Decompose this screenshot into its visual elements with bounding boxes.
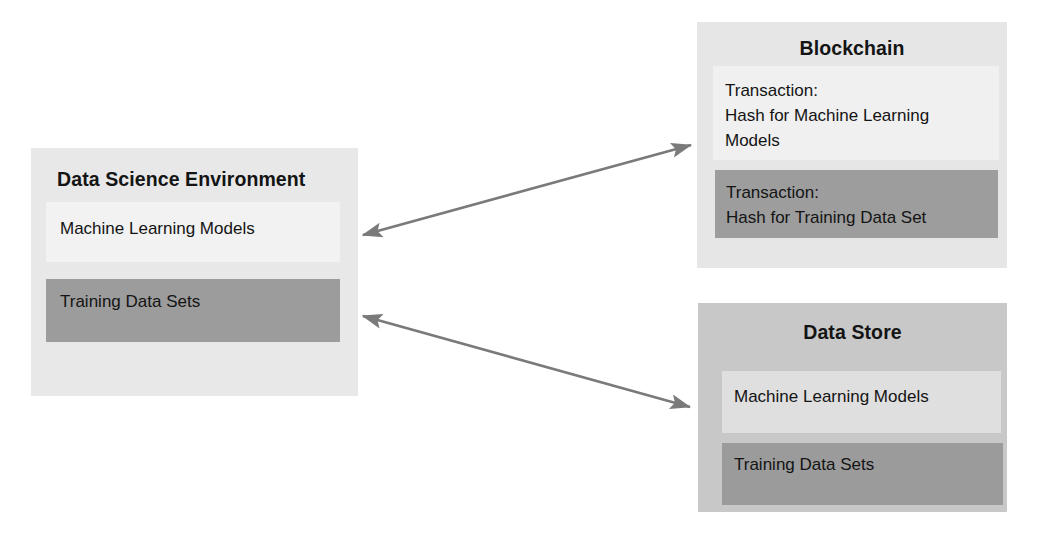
blockchain-transaction-training-data-hash-label: Transaction: Hash for Training Data Set [726, 180, 926, 230]
data-store-machine-learning-models-label: Machine Learning Models [734, 387, 929, 407]
dse-training-data-sets-box[interactable]: Training Data Sets [46, 279, 340, 342]
data-science-environment-panel[interactable]: Data Science Environment Machine Learnin… [31, 148, 358, 396]
blockchain-transaction-ml-hash-box[interactable]: Transaction: Hash for Machine Learning M… [713, 66, 999, 160]
dse-machine-learning-models-label: Machine Learning Models [60, 219, 255, 239]
blockchain-panel[interactable]: Blockchain Transaction: Hash for Machine… [697, 22, 1007, 268]
dse-training-data-sets-label: Training Data Sets [60, 292, 200, 312]
data-store-title: Data Store [698, 321, 1007, 344]
dse-machine-learning-models-box[interactable]: Machine Learning Models [46, 202, 340, 262]
data-science-environment-title: Data Science Environment [57, 168, 358, 191]
connector-dse-blockchain [363, 145, 691, 235]
blockchain-transaction-ml-hash-label: Transaction: Hash for Machine Learning M… [725, 78, 929, 153]
connector-dse-data-store [363, 316, 690, 407]
blockchain-title: Blockchain [697, 37, 1007, 60]
data-store-panel[interactable]: Data Store Machine Learning Models Train… [698, 303, 1007, 512]
blockchain-transaction-training-data-hash-box[interactable]: Transaction: Hash for Training Data Set [715, 170, 998, 238]
data-store-training-data-sets-label: Training Data Sets [734, 455, 874, 475]
data-store-training-data-sets-box[interactable]: Training Data Sets [722, 443, 1003, 505]
diagram-canvas: Data Science Environment Machine Learnin… [0, 0, 1052, 543]
data-store-machine-learning-models-box[interactable]: Machine Learning Models [722, 371, 1001, 433]
